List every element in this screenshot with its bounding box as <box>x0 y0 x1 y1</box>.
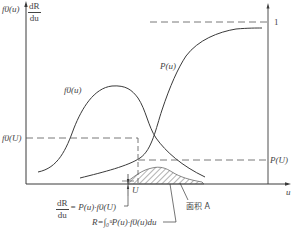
f0-curve-label: f0(u) <box>64 86 82 95</box>
area-leader <box>180 183 188 200</box>
P-curve <box>80 28 262 178</box>
P-curve-label: P(u) <box>160 62 176 71</box>
PU-label: P(U) <box>270 156 288 165</box>
reliability-diagram <box>0 0 294 237</box>
eq1-den: du <box>56 210 69 220</box>
right-axis-tick-1: 1 <box>274 18 279 27</box>
eq2-leader <box>163 184 176 222</box>
area-A-label: 面积 A <box>186 200 210 211</box>
eq2: R=∫₀ᵘP(u)·f0(u)du <box>92 218 157 227</box>
area-a-hatch <box>128 167 204 184</box>
U-label: U <box>132 186 139 195</box>
x-axis-label-u: u <box>286 188 291 197</box>
y-axis <box>24 1 27 184</box>
f0-curve <box>38 86 205 177</box>
eq1-rhs: = P(u)·f0(U) <box>70 203 116 212</box>
y-axis-label-dRdu: dR du <box>28 2 41 23</box>
eq1-num: dR <box>56 199 69 210</box>
eq1-leader <box>124 196 128 206</box>
f0U-label: f0(U) <box>2 134 22 143</box>
eq1-fraction: dR du <box>56 199 69 220</box>
du-den: du <box>28 13 41 23</box>
dR-num: dR <box>28 2 41 13</box>
y-axis-label-f0: f0(u) <box>2 5 20 14</box>
